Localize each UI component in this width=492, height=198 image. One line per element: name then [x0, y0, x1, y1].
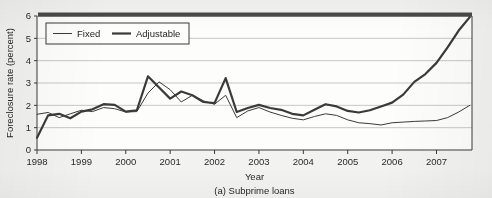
xtick-label-2004: 2004 — [293, 156, 314, 167]
ytick-label-6: 6 — [26, 10, 31, 21]
xtick-label-2006: 2006 — [382, 156, 403, 167]
xtick-label-2007: 2007 — [426, 156, 447, 167]
figure-container: 0123456199819992000200120022003200420052… — [0, 0, 492, 198]
xtick-label-1998: 1998 — [26, 156, 47, 167]
ytick-label-4: 4 — [26, 55, 31, 66]
ytick-label-5: 5 — [26, 33, 31, 44]
subprime-foreclosure-line-chart: 0123456199819992000200120022003200420052… — [0, 0, 492, 198]
xtick-label-2003: 2003 — [248, 156, 269, 167]
ytick-label-3: 3 — [26, 77, 31, 88]
ytick-label-2: 2 — [26, 100, 31, 111]
xtick-label-2001: 2001 — [160, 156, 181, 167]
figure-caption: (a) Subprime loans — [214, 185, 295, 196]
plot-top-rule — [38, 13, 472, 17]
x-axis-title: Year — [245, 171, 264, 182]
xtick-label-2005: 2005 — [337, 156, 358, 167]
ytick-label-1: 1 — [26, 122, 31, 133]
xtick-label-2002: 2002 — [204, 156, 225, 167]
legend-label-fixed: Fixed — [77, 28, 100, 39]
legend-label-adjustable: Adjustable — [136, 28, 180, 39]
y-axis-title: Foreclosure rate (percent) — [4, 28, 15, 138]
xtick-label-2000: 2000 — [115, 156, 136, 167]
xtick-label-1999: 1999 — [71, 156, 92, 167]
ytick-label-0: 0 — [26, 144, 31, 155]
